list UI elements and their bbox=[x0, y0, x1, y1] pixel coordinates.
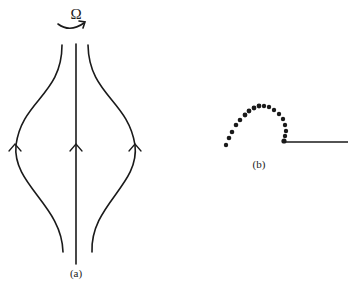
dot bbox=[281, 117, 285, 121]
dot bbox=[281, 138, 286, 143]
dot bbox=[272, 108, 276, 112]
dot bbox=[243, 113, 248, 118]
dot bbox=[230, 130, 235, 135]
dot bbox=[262, 104, 266, 108]
right-streamline bbox=[88, 45, 135, 252]
dot bbox=[224, 143, 228, 147]
dot bbox=[284, 129, 288, 133]
dot bbox=[283, 123, 287, 127]
diagram-canvas: Ω (a) (b) bbox=[0, 0, 356, 287]
omega-symbol: Ω bbox=[70, 6, 81, 22]
dot bbox=[267, 105, 271, 109]
dot bbox=[238, 118, 243, 123]
panel-b-label: (b) bbox=[253, 158, 266, 171]
panel-a: Ω (a) bbox=[9, 6, 141, 280]
dot bbox=[227, 136, 232, 141]
dot bbox=[257, 104, 262, 109]
dot bbox=[234, 123, 239, 128]
rotation-arrow-icon bbox=[58, 23, 84, 28]
panel-b: (b) bbox=[224, 104, 348, 171]
dot bbox=[283, 134, 287, 138]
dot bbox=[247, 109, 252, 114]
panel-a-label: (a) bbox=[70, 267, 83, 280]
dot bbox=[277, 112, 281, 116]
dot bbox=[252, 106, 257, 111]
left-streamline bbox=[16, 45, 63, 252]
